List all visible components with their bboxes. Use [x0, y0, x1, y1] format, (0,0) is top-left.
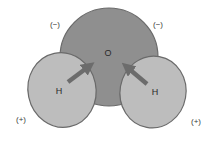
hydrogen-right-label: H — [152, 87, 159, 97]
oxygen-label: O — [104, 48, 111, 58]
negative-charge-left: (−) — [50, 20, 60, 29]
positive-charge-left: (+) — [16, 115, 26, 124]
water-molecule-diagram: O H H (−) (−) (+) (+) — [0, 0, 214, 144]
negative-charge-right: (−) — [153, 20, 163, 29]
hydrogen-left-label: H — [56, 86, 63, 96]
positive-charge-right: (+) — [191, 117, 201, 126]
